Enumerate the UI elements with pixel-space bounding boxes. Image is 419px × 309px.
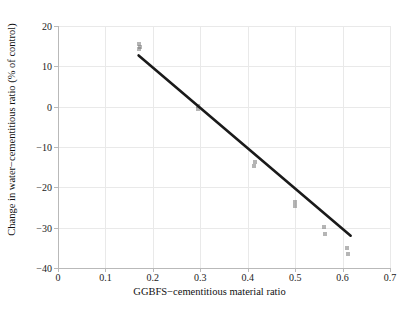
gridline-vertical [105,26,106,268]
data-point [293,204,297,208]
y-tick-label: 10 [42,61,52,72]
data-point [252,164,256,168]
gridline-vertical [343,26,344,268]
gridline-horizontal [58,107,390,108]
y-tick-mark [54,26,58,27]
data-point [346,252,350,256]
y-tick-label: 0 [47,101,52,112]
x-tick-label: 0 [56,272,61,283]
y-tick-mark [54,147,58,148]
gridline-horizontal [58,187,390,188]
y-tick-label: −10 [36,142,52,153]
data-point [322,225,326,229]
y-tick-label: −40 [36,263,52,274]
y-tick-label: 20 [42,21,52,32]
x-tick-label: 0.3 [194,272,207,283]
data-point [323,232,327,236]
y-tick-mark [54,66,58,67]
y-tick-mark [54,107,58,108]
y-tick-mark [54,187,58,188]
x-axis-line [58,268,390,269]
gridline-horizontal [58,147,390,148]
gridline-horizontal [58,26,390,27]
y-tick-label: −30 [36,222,52,233]
x-tick-label: 0.6 [336,272,349,283]
x-tick-label: 0.4 [241,272,254,283]
data-point [345,246,349,250]
x-tick-label: 0.1 [99,272,112,283]
data-point [137,47,141,51]
y-axis-line [58,26,59,268]
y-tick-mark [54,228,58,229]
x-tick-label: 0.5 [289,272,302,283]
x-tick-label: 0.2 [147,272,160,283]
gridline-vertical [200,26,201,268]
x-tick-label: 0.7 [384,272,397,283]
x-axis-title: GGBFS−cementitious material ratio [0,286,419,297]
data-point [196,107,200,111]
gridline-vertical [295,26,296,268]
gridline-vertical [153,26,154,268]
gridline-horizontal [58,66,390,67]
scatter-chart: −40−30−20−1001020 00.10.20.30.40.50.60.7… [0,0,419,309]
y-axis-title: Change in water−cementitious ratio (% of… [6,5,17,255]
plot-area: −40−30−20−1001020 00.10.20.30.40.50.60.7 [58,26,390,268]
gridline-horizontal [58,228,390,229]
gridline-vertical [248,26,249,268]
gridline-vertical [390,26,391,268]
y-tick-label: −20 [36,182,52,193]
